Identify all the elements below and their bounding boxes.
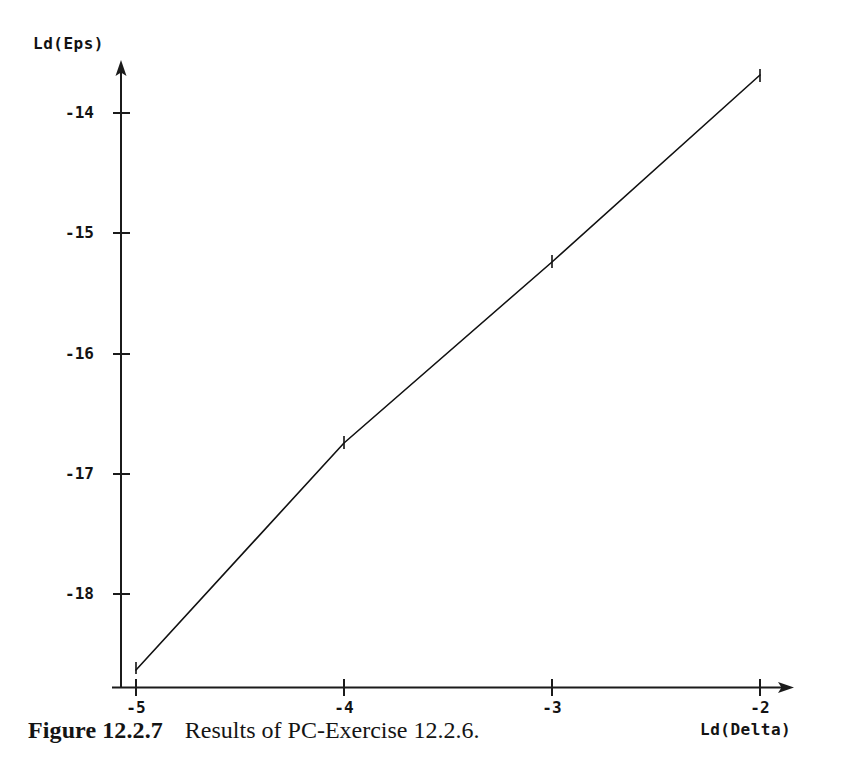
caption-figure-number: Figure 12.2.7 (28, 717, 163, 743)
figure-caption: Figure 12.2.7Results of PC-Exercise 12.2… (28, 717, 480, 743)
figure-container: Ld(Eps) Ld(Delta) -14 -15 -16 -17 -18 -5… (0, 0, 858, 770)
x-axis (112, 682, 794, 693)
chart-svg (0, 0, 858, 700)
x-tick-label-minus4: -4 (329, 700, 359, 716)
x-axis-title: Ld(Delta) (700, 722, 791, 738)
y-tick-label-minus16: -16 (48, 346, 94, 362)
plot-area: Ld(Eps) Ld(Delta) -14 -15 -16 -17 -18 -5… (0, 0, 858, 700)
caption-description: Results of PC-Exercise 12.2.6. (185, 717, 480, 743)
x-tick-label-minus2: -2 (745, 700, 775, 716)
y-tick-label-minus15: -15 (48, 225, 94, 241)
data-line (136, 75, 760, 670)
y-tick-label-minus17: -17 (48, 466, 94, 482)
data-series (136, 69, 760, 674)
y-tick-label-minus18: -18 (48, 586, 94, 602)
x-tick-label-minus3: -3 (537, 700, 567, 716)
y-axis-title: Ld(Eps) (33, 36, 104, 52)
y-tick-label-minus14: -14 (48, 105, 94, 121)
x-tick-label-minus5: -5 (121, 700, 151, 716)
